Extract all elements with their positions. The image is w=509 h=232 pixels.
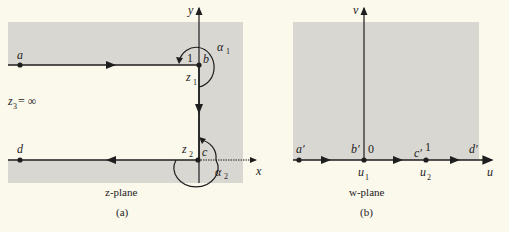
label-a-prime: a′ (296, 142, 305, 156)
label-a: a (17, 48, 23, 62)
label-z1: z (185, 70, 191, 84)
label-v-axis: v (353, 3, 359, 17)
label-one: 1 (187, 51, 193, 65)
caption-z-plane: z-plane (105, 186, 137, 198)
label-x-axis: x (255, 164, 262, 178)
shaded-region-bottom (8, 160, 243, 183)
label-z1-sub: 1 (193, 78, 197, 87)
w-plane-panel: v a′ b′ 0 c′ 1 d′ u 1 u 2 u w-plane (b) (293, 3, 493, 219)
label-z3-sub: 3 (13, 102, 17, 111)
label-alpha2: α (215, 165, 222, 179)
caption-w-plane: w-plane (349, 186, 385, 198)
label-c-prime: c′ (414, 146, 422, 160)
label-d: d (17, 142, 24, 156)
point-a (17, 62, 22, 67)
figure-canvas: a 1 b α 1 z 1 z 3 = ∞ d z 2 c α 2 y x z-… (0, 0, 509, 232)
label-u1: u (358, 165, 364, 179)
label-b: b (203, 52, 209, 66)
z-plane-panel: a 1 b α 1 z 1 z 3 = ∞ d z 2 c α 2 y x z-… (7, 3, 262, 219)
caption-tag-b: (b) (360, 206, 373, 219)
point-b (196, 62, 201, 67)
label-one: 1 (425, 140, 431, 154)
caption-tag-a: (a) (116, 206, 129, 219)
label-u2-sub: 2 (427, 173, 431, 182)
point-d (17, 157, 22, 162)
label-b-prime: b′ (351, 142, 360, 156)
label-z2: z (181, 142, 187, 156)
label-u1-sub: 1 (365, 173, 369, 182)
label-alpha1: α (217, 40, 224, 54)
point-b-prime (361, 157, 366, 162)
label-alpha2-sub: 2 (224, 172, 228, 181)
label-c: c (202, 145, 208, 159)
label-z3-eq: = ∞ (18, 94, 36, 108)
label-d-prime: d′ (469, 142, 478, 156)
label-alpha1-sub: 1 (226, 47, 230, 56)
point-c (195, 157, 200, 162)
shaded-upper-half-plane (293, 22, 479, 160)
point-c-prime (423, 157, 428, 162)
label-u2: u (420, 165, 426, 179)
label-z2-sub: 2 (189, 150, 193, 159)
point-a-prime (296, 157, 301, 162)
label-y-axis: y (187, 3, 194, 17)
label-zero: 0 (368, 142, 374, 156)
label-u-axis: u (487, 165, 493, 179)
